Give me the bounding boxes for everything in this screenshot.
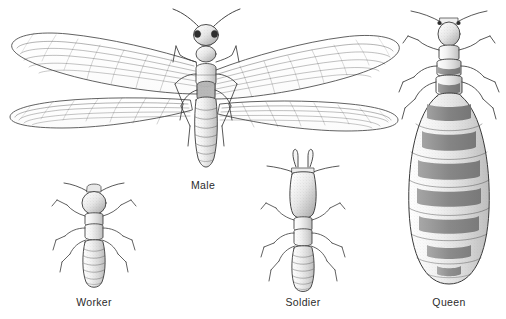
- male-abdomen: [195, 97, 218, 167]
- worker-mandible-plate: [87, 184, 101, 192]
- male-eye-left: [194, 30, 200, 37]
- worker-thorax: [85, 213, 103, 240]
- soldier-thorax: [294, 217, 312, 246]
- queen-head: [437, 18, 460, 46]
- queen-thorax: [436, 45, 462, 96]
- soldier-abdomen: [292, 246, 314, 292]
- male-eye-right: [211, 30, 217, 37]
- male-head: [194, 25, 219, 47]
- label-male: Male: [191, 179, 215, 191]
- label-worker: Worker: [76, 296, 112, 308]
- label-soldier: Soldier: [285, 296, 320, 308]
- worker-abdomen: [83, 240, 105, 288]
- queen-eye-right: [456, 21, 460, 25]
- male-thorax: [196, 46, 216, 101]
- queen-abdomen: [409, 93, 490, 284]
- soldier-head: [290, 168, 316, 219]
- termite-castes-plate: [0, 0, 506, 319]
- queen-eye-left: [437, 21, 441, 25]
- plate-illustration: [0, 0, 506, 319]
- label-queen: Queen: [432, 296, 465, 308]
